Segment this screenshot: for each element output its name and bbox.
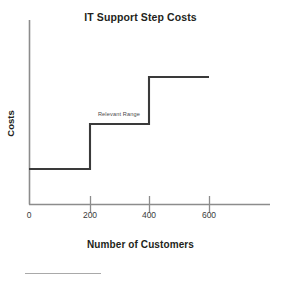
x-tick-label-200: 200 <box>70 210 110 221</box>
footer-divider <box>25 273 101 274</box>
x-tick-label-0: 0 <box>9 210 49 221</box>
x-tick-label-600: 600 <box>189 210 229 221</box>
x-axis-title: Number of Customers <box>0 239 281 250</box>
x-tick-label-400: 400 <box>129 210 169 221</box>
y-axis-title: Costs <box>5 101 16 147</box>
relevant-range-annotation: Relevant Range <box>74 111 164 117</box>
plot-area: Costs 0 200 400 600 Relevant Range Numbe… <box>0 0 281 286</box>
step-cost-chart-figure: IT Support Step Costs Costs 0 200 400 60… <box>0 0 281 286</box>
step-cost-line <box>29 77 209 169</box>
